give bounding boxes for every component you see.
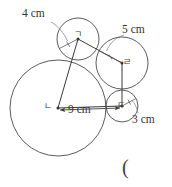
dimension-label-3cm: 3 cm	[132, 114, 155, 126]
dimension-label-5cm: 5 cm	[122, 24, 145, 36]
vertex-label-nieun: ㄴ	[44, 102, 52, 111]
dimension-label-4cm: 4 cm	[22, 8, 45, 20]
geometry-figure: 4 cm 5 cm 3 cm 9 cm ㄱ ㄹ ㄷ ㄴ (	[0, 0, 172, 187]
figure-canvas	[0, 0, 172, 187]
leader-4cm	[51, 22, 68, 41]
trailing-parenthesis: (	[122, 157, 129, 177]
vertex-label-giyeok: ㄱ	[74, 30, 82, 39]
dimension-label-9cm: 9 cm	[68, 104, 91, 116]
vertex-label-rieul: ㄹ	[123, 58, 131, 67]
center-dot-b	[57, 107, 60, 110]
vertex-label-digeut: ㄷ	[117, 101, 125, 110]
center-quadrilateral	[58, 39, 122, 108]
center-dots	[57, 38, 124, 110]
